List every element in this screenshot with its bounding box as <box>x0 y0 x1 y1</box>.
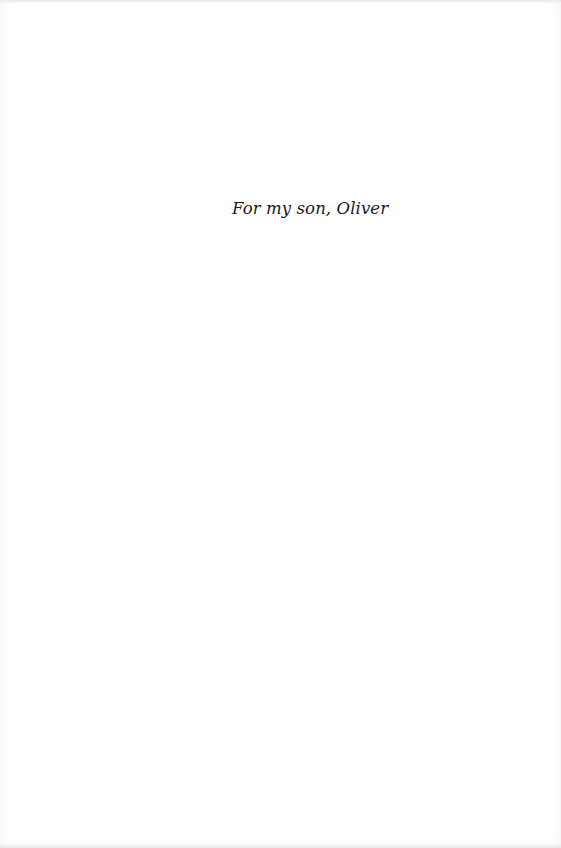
scan-edge-bottom <box>0 843 561 848</box>
book-page: For my son, Oliver <box>0 0 561 848</box>
dedication-text: For my son, Oliver <box>232 198 388 220</box>
scan-edge-top <box>0 0 561 4</box>
